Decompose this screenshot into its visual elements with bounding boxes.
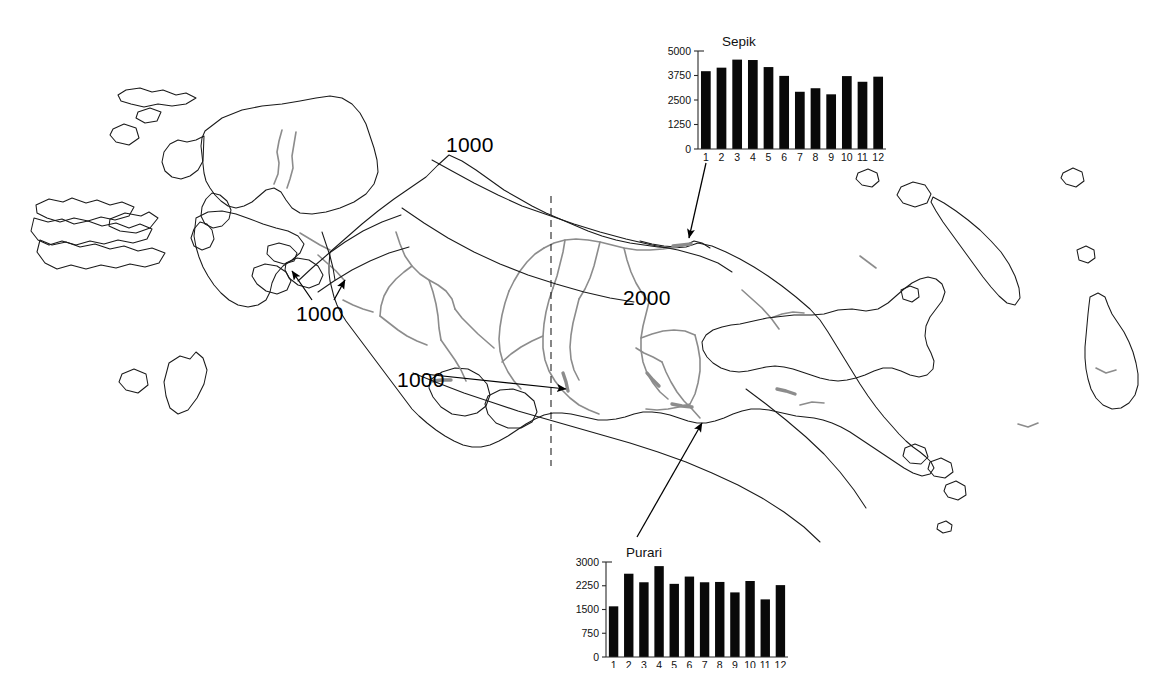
ytick-label-sepik-0: 0 [685,143,691,155]
ytick-label-purari-1500: 1500 [576,603,600,615]
bar-purari-7 [700,582,709,657]
bar-sepik-11 [858,82,868,149]
western-islands [31,88,207,414]
bar-sepik-7 [795,92,805,149]
bar-purari-4 [654,566,663,657]
bougainville [1085,293,1138,409]
bomberai-peninsula [194,211,323,307]
xtick-label-purari-11: 11 [760,659,771,668]
xtick-label-sepik-2: 2 [719,151,725,162]
bar-purari-8 [715,582,724,657]
xtick-label-purari-6: 6 [686,659,692,668]
manus-island [856,169,879,187]
xtick-label-sepik-7: 7 [797,151,803,162]
xtick-label-sepik-5: 5 [766,151,772,162]
xtick-label-sepik-11: 11 [857,151,868,162]
bar-purari-9 [730,592,739,657]
isohyet-1000-west-b [318,247,409,292]
purari-chart: Purari 0750150022503000 123456789101112 [568,540,796,668]
xtick-label-purari-7: 7 [702,659,708,668]
bar-sepik-1 [701,71,711,149]
xtick-label-sepik-8: 8 [813,151,819,162]
xtick-label-sepik-10: 10 [841,151,853,162]
xtick-label-purari-4: 4 [656,659,662,668]
sepik-plot: 01250250037505000 123456789101112 [668,45,886,162]
bar-sepik-4 [748,60,758,149]
xtick-label-sepik-6: 6 [781,151,787,162]
contour-label-north-1000: 1000 [446,133,494,157]
bar-sepik-2 [717,68,727,149]
sepik-chart-svg: 01250250037505000 123456789101112 [660,34,892,162]
figure-canvas: 1000 1000 2000 1000 Sepik 01250250037505… [0,0,1171,687]
birds-head-peninsula [162,96,378,250]
sepik-chart: Sepik 01250250037505000 123456789101112 [660,34,892,162]
new-hanover [897,182,931,207]
purari-chart-svg: 0750150022503000 123456789101112 [568,540,796,668]
ytick-label-purari-2250: 2250 [576,579,600,591]
contour-label-south-1000: 1000 [397,368,445,392]
isohyet-1000-north [432,160,732,272]
ytick-label-sepik-1250: 1250 [668,118,692,130]
xtick-label-purari-10: 10 [744,659,756,668]
purari-leader-arrow [637,423,702,537]
bar-purari-3 [639,582,648,657]
bar-purari-10 [745,581,754,657]
bar-purari-12 [776,585,785,657]
xtick-label-sepik-3: 3 [734,151,740,162]
xtick-label-sepik-1: 1 [703,151,709,162]
purari-plot: 0750150022503000 123456789101112 [576,556,788,668]
bar-sepik-10 [842,76,852,149]
bar-purari-2 [624,574,633,657]
bar-purari-6 [685,577,694,657]
bar-purari-1 [609,606,618,657]
ytick-label-purari-3000: 3000 [576,556,600,568]
ytick-label-purari-750: 750 [581,627,599,639]
ytick-label-sepik-3750: 3750 [668,69,692,81]
xtick-label-purari-2: 2 [626,659,632,668]
isohyet-2000-central [402,208,634,302]
xtick-label-purari-9: 9 [732,659,738,668]
xtick-label-purari-3: 3 [641,659,647,668]
bismarck-archipelago [702,168,1138,409]
bar-sepik-12 [873,77,883,149]
bar-sepik-8 [811,88,821,149]
bar-sepik-3 [732,60,742,149]
xtick-label-sepik-9: 9 [828,151,834,162]
bar-purari-11 [761,599,770,657]
isohyet-se-tail [746,389,866,508]
xtick-label-purari-5: 5 [671,659,677,668]
xtick-label-sepik-4: 4 [750,151,756,162]
sepik-leader-arrow [689,163,706,238]
ytick-label-purari-0: 0 [593,651,599,663]
contour-label-central-2000: 2000 [623,286,671,310]
bar-sepik-5 [764,67,774,149]
new-britain [702,277,945,381]
river-network [300,232,1038,427]
contour-label-west-1000: 1000 [296,302,344,326]
bar-purari-5 [670,584,679,657]
xtick-label-purari-1: 1 [611,659,617,668]
bar-sepik-9 [826,94,836,149]
bar-sepik-6 [779,76,789,149]
xtick-label-purari-8: 8 [717,659,723,668]
xtick-label-sepik-12: 12 [872,151,884,162]
isohyet-contours [298,160,866,542]
ytick-label-sepik-2500: 2500 [668,94,692,106]
ytick-label-sepik-5000: 5000 [668,45,692,57]
xtick-label-purari-12: 12 [775,659,787,668]
